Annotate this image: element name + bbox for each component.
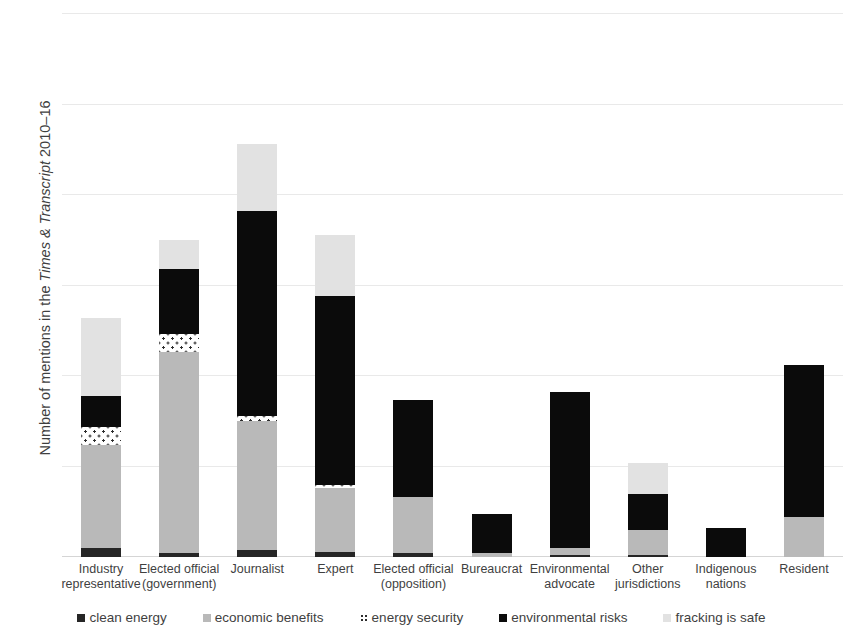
bar-segment-fracking-is-safe[interactable] (81, 318, 121, 396)
legend-item-environmental-risks[interactable]: environmental risks (499, 610, 627, 625)
legend-item-economic-benefits[interactable]: economic benefits (203, 610, 324, 625)
bar-segment-clean-energy[interactable] (237, 550, 277, 557)
bar-segment-economic-benefits[interactable] (393, 497, 433, 553)
bar-journalist[interactable] (237, 144, 277, 557)
plot-area: 050100150200250300 (62, 14, 843, 557)
bar-indigenous-nations[interactable] (706, 528, 746, 557)
bar-segment-fracking-is-safe[interactable] (315, 235, 355, 297)
bar-segment-clean-energy[interactable] (159, 553, 199, 557)
bar-industry-representative[interactable] (81, 318, 121, 557)
bar-segment-environmental-risks[interactable] (393, 400, 433, 498)
legend-label: clean energy (89, 610, 166, 625)
y-axis-title-italic: Times & Transcript (37, 161, 53, 281)
legend-label: energy security (372, 610, 464, 625)
x-axis-label-line: (government) (126, 577, 232, 592)
x-axis-label-line: nations (673, 577, 779, 592)
gridline (62, 13, 843, 14)
y-axis-title: Number of mentions in the Times & Transc… (37, 43, 53, 513)
chart-legend: clean energyeconomic benefitsenergy secu… (0, 606, 843, 629)
bar-segment-clean-energy[interactable] (550, 555, 590, 557)
bar-segment-clean-energy[interactable] (81, 548, 121, 557)
bar-segment-fracking-is-safe[interactable] (237, 144, 277, 211)
bar-segment-environmental-risks[interactable] (472, 514, 512, 554)
bar-segment-clean-energy[interactable] (315, 552, 355, 557)
bar-segment-energy-security[interactable] (315, 485, 355, 489)
bar-segment-environmental-risks[interactable] (784, 365, 824, 517)
environmental-risks-swatch (499, 614, 507, 622)
x-axis-label-resident: Resident (751, 562, 843, 577)
bar-segment-fracking-is-safe[interactable] (628, 463, 668, 494)
bar-environmental-advocate[interactable] (550, 392, 590, 557)
bar-segment-fracking-is-safe[interactable] (159, 240, 199, 269)
bar-bureaucrat[interactable] (472, 514, 512, 557)
bar-other-jurisdictions[interactable] (628, 463, 668, 557)
bar-segment-economic-benefits[interactable] (81, 445, 121, 548)
bar-segment-environmental-risks[interactable] (81, 396, 121, 427)
bar-segment-environmental-risks[interactable] (159, 269, 199, 334)
y-axis-title-suffix: 2010–16 (37, 100, 53, 160)
bar-elected-official-government[interactable] (159, 240, 199, 557)
bar-segment-economic-benefits[interactable] (159, 352, 199, 553)
stacked-bar-chart: Number of mentions in the Times & Transc… (0, 0, 843, 629)
x-axis-label-line: (opposition) (360, 577, 466, 592)
bar-segment-economic-benefits[interactable] (315, 488, 355, 551)
legend-label: fracking is safe (675, 610, 765, 625)
bar-segment-economic-benefits[interactable] (628, 530, 668, 555)
bar-segment-environmental-risks[interactable] (628, 494, 668, 530)
bar-segment-clean-energy[interactable] (628, 555, 668, 557)
bar-elected-official-opposition[interactable] (393, 400, 433, 557)
bar-segment-environmental-risks[interactable] (550, 392, 590, 548)
x-axis-label-line: Resident (751, 562, 843, 577)
bar-segment-economic-benefits[interactable] (472, 553, 512, 557)
bar-segment-environmental-risks[interactable] (237, 211, 277, 416)
fracking-is-safe-swatch (663, 614, 671, 622)
legend-label: environmental risks (511, 610, 627, 625)
legend-item-clean-energy[interactable]: clean energy (77, 610, 166, 625)
bar-segment-economic-benefits[interactable] (237, 421, 277, 550)
energy-security-swatch (360, 614, 368, 622)
bar-segment-energy-security[interactable] (81, 427, 121, 445)
bar-resident[interactable] (784, 365, 824, 557)
bar-expert[interactable] (315, 235, 355, 557)
gridline (62, 104, 843, 105)
legend-item-fracking-is-safe[interactable]: fracking is safe (663, 610, 765, 625)
gridline (62, 194, 843, 195)
legend-label: economic benefits (215, 610, 324, 625)
bar-segment-clean-energy[interactable] (393, 553, 433, 557)
bar-segment-economic-benefits[interactable] (550, 548, 590, 555)
bar-segment-economic-benefits[interactable] (784, 517, 824, 557)
bar-segment-environmental-risks[interactable] (315, 296, 355, 484)
y-axis-title-prefix: Number of mentions in the (37, 281, 53, 455)
legend-item-energy-security[interactable]: energy security (360, 610, 464, 625)
bar-segment-energy-security[interactable] (159, 334, 199, 352)
economic-benefits-swatch (203, 614, 211, 622)
bar-segment-environmental-risks[interactable] (706, 528, 746, 557)
bar-segment-energy-security[interactable] (237, 416, 277, 421)
clean-energy-swatch (77, 614, 85, 622)
